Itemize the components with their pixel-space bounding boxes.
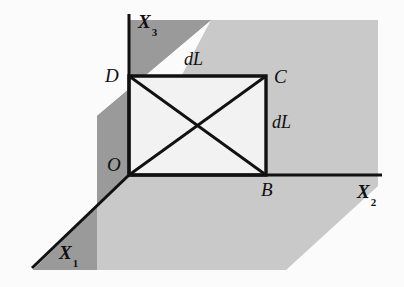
- point-label-b: B: [261, 180, 273, 199]
- x2-axis-label: X2: [357, 182, 375, 205]
- x3-axis-subscript: 3: [152, 26, 158, 38]
- x1-axis-subscript: 1: [73, 257, 79, 269]
- dimension-label-top: dL: [184, 50, 203, 68]
- point-label-d: D: [105, 66, 119, 85]
- x2-axis-subscript: 2: [371, 196, 377, 208]
- figure-canvas: X3 X2 X1 D C O B dL dL: [0, 0, 404, 287]
- point-label-c: C: [274, 67, 287, 86]
- point-label-o: O: [107, 155, 121, 174]
- dimension-label-right: dL: [272, 113, 291, 131]
- x1-axis-label: X1: [59, 243, 77, 266]
- x3-axis-label: X3: [138, 12, 156, 35]
